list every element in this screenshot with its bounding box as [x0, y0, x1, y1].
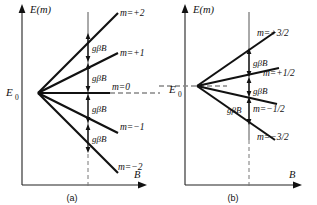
label-m-zero: m=0 — [112, 82, 130, 92]
panel-b-gap-arrows — [247, 48, 252, 125]
panel-b-e0-subscript: 0 — [178, 90, 182, 99]
panel-a: E(m) B E 0 m=+2 m=+1 m=0 m=−1 m=−2 gβB g… — [0, 0, 160, 205]
panel-a-e0-subscript: 0 — [15, 93, 19, 102]
panel-b-gap-label-1: gβB — [253, 58, 268, 68]
panel-a-caption: (a) — [67, 193, 78, 203]
panel-a-y-axis — [19, 4, 26, 185]
label-m-plus-3-2: m=+3/2 — [257, 28, 289, 38]
panel-b-gap-label-2: gβB — [253, 86, 268, 96]
label-m-minus-3-2: m=−3/2 — [257, 132, 289, 142]
gap-label-1: gβB — [92, 43, 107, 53]
panel-b-plot: E(m) B E 0 m=+3/2 m=+1/2 m=−1/2 m=−3/2 g… — [157, 0, 317, 205]
panel-a-e0-symbol: E — [5, 86, 13, 98]
label-m-minus-2: m=−2 — [118, 162, 143, 172]
panel-b-gap-label-3: gβB — [227, 105, 242, 115]
panel-b-y-axis-label: E(m) — [192, 4, 214, 16]
label-m-minus-1: m=−1 — [120, 122, 144, 132]
panel-b-e0-symbol: E — [168, 83, 176, 95]
zeeman-splitting-figure: E(m) B E 0 m=+2 m=+1 m=0 m=−1 m=−2 gβB g… — [0, 0, 317, 205]
panel-b: E(m) B E 0 m=+3/2 m=+1/2 m=−1/2 m=−3/2 g… — [157, 0, 317, 205]
panel-a-e0-label: E 0 — [5, 86, 19, 102]
label-m-plus-1-2: m=+1/2 — [263, 68, 295, 78]
panel-a-level-lines — [38, 13, 118, 173]
label-m-plus-1: m=+1 — [120, 48, 144, 58]
label-m-plus-2: m=+2 — [120, 8, 145, 18]
panel-b-x-axis-label: B — [289, 169, 296, 180]
gap-label-4: gβB — [92, 134, 107, 144]
panel-a-plot: E(m) B E 0 m=+2 m=+1 m=0 m=−1 m=−2 gβB g… — [0, 0, 160, 205]
panel-b-x-axis — [185, 182, 302, 189]
panel-a-y-axis-label: E(m) — [29, 4, 51, 16]
gap-label-2: gβB — [92, 73, 107, 83]
panel-b-y-axis — [182, 4, 189, 185]
gap-label-3: gβB — [92, 104, 107, 114]
label-m-minus-1-2: m=−1/2 — [253, 104, 285, 114]
panel-a-x-axis — [22, 182, 147, 189]
panel-b-caption: (b) — [228, 193, 239, 203]
